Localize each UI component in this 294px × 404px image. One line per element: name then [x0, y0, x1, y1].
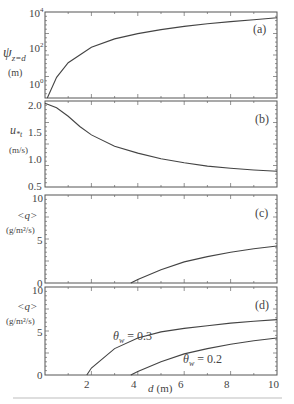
panel-tag-d: (d) [255, 298, 269, 312]
ytick-b-0: 2.0 [28, 99, 42, 111]
panel-a [45, 12, 277, 98]
xtick-8: 8 [224, 378, 230, 390]
panel-d [45, 287, 277, 375]
q-theta-0.3-curve [87, 320, 277, 375]
xtick-10: 10 [268, 378, 280, 390]
ytick-a-1: 102 [29, 41, 44, 54]
ylabel-a: ψz=d [3, 45, 26, 63]
ylabel-b-unit: (m/s) [9, 145, 28, 155]
ytick-c-1: 5 [37, 234, 43, 246]
ytick-b-3: 0.5 [28, 180, 42, 192]
psi-curve [47, 18, 277, 98]
ylabel-a-unit: (m) [8, 67, 22, 79]
xtick-2: 2 [84, 378, 90, 390]
ylabel-d: <q> [17, 300, 37, 312]
annotation-theta-0.3: θw = 0.3 [113, 329, 152, 345]
ylabel-c-unit: (g/m²/s) [6, 225, 35, 235]
annotation-theta-0.2: θw = 0.2 [183, 352, 222, 368]
xlabel: d(m) [148, 382, 173, 395]
ytick-d-1: 5 [37, 326, 43, 338]
panel-tag-a: (a) [253, 22, 266, 36]
ytick-d-2: 0 [37, 369, 43, 381]
panel-c [45, 195, 277, 283]
ylabel-b: u*t [10, 123, 23, 139]
ytick-b-2: 1.0 [28, 153, 42, 165]
panel-b-frame [45, 101, 277, 187]
panel-b [45, 101, 277, 187]
panel-tag-b: (b) [255, 112, 269, 126]
q-curve [131, 246, 277, 283]
figure-canvas: 104 102 100 ψz=d (m) (a) 2.0 1.5 1.0 0.5… [0, 0, 294, 404]
xtick-4: 4 [131, 378, 137, 390]
ytick-a-2: 100 [29, 77, 44, 90]
ylabel-d-unit: (g/m²/s) [6, 316, 35, 326]
ytick-a-0: 104 [29, 6, 44, 19]
panel-tag-c: (c) [255, 206, 268, 220]
ytick-c-0: 10 [32, 192, 44, 204]
ytick-b-1: 1.5 [28, 126, 42, 138]
xtick-6: 6 [178, 378, 184, 390]
ylabel-c: <q> [17, 209, 37, 221]
ustar-curve [45, 103, 277, 171]
ytick-d-0: 10 [32, 284, 44, 296]
